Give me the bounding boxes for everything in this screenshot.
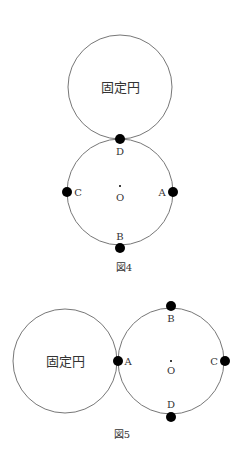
figure-4: 固定円 O D C A B 図4 <box>62 35 178 273</box>
point-a-dot <box>168 187 178 197</box>
point-d-dot <box>166 412 176 422</box>
point-b-dot <box>166 301 176 311</box>
point-b-dot <box>115 243 125 253</box>
center-label: O <box>116 192 124 203</box>
fixed-circle-label: 固定円 <box>46 354 85 369</box>
point-b-label: B <box>167 313 174 324</box>
point-c-dot <box>62 187 72 197</box>
center-label: O <box>167 365 175 376</box>
figure-caption: 図5 <box>114 429 130 440</box>
point-a-dot <box>113 356 123 366</box>
point-c-label: C <box>74 187 82 198</box>
point-b-label: B <box>116 231 123 242</box>
figure-5: 固定円 O A B C D 図5 <box>13 301 230 440</box>
fixed-circle-label: 固定円 <box>101 80 140 95</box>
point-d-dot <box>115 134 125 144</box>
point-c-label: C <box>210 356 218 367</box>
point-d-label: D <box>167 399 175 410</box>
point-a-label: A <box>123 356 132 367</box>
figure-caption: 図4 <box>116 262 132 273</box>
point-d-label: D <box>116 146 124 157</box>
center-dot <box>119 185 121 187</box>
diagram-canvas: 固定円 O D C A B 図4 固定円 O A B C D 図5 <box>0 0 248 463</box>
point-a-label: A <box>157 187 166 198</box>
center-dot <box>170 360 172 362</box>
point-c-dot <box>220 356 230 366</box>
